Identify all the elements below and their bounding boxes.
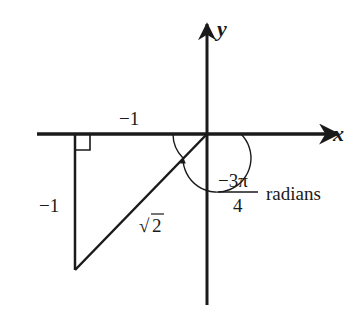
- angle-arc-start: [173, 134, 183, 158]
- triangle-hypotenuse: [75, 134, 207, 270]
- horizontal-leg-label: −1: [119, 108, 139, 129]
- y-axis-label: y: [214, 16, 227, 41]
- angle-label: −3π 4 radians: [218, 170, 321, 216]
- right-angle-marker: [75, 134, 90, 150]
- angle-unit: radians: [266, 183, 321, 204]
- x-axis-label: x: [332, 121, 344, 146]
- vertical-leg-label: −1: [39, 195, 59, 216]
- angle-denominator: 4: [233, 195, 243, 216]
- hypotenuse-label: √ 2: [139, 214, 164, 236]
- radical-sign: √: [139, 215, 150, 236]
- trig-diagram: x y −1 −1 √ 2 −3π 4 radians: [0, 0, 357, 330]
- angle-numerator: −3π: [218, 170, 248, 191]
- radicand: 2: [152, 215, 162, 236]
